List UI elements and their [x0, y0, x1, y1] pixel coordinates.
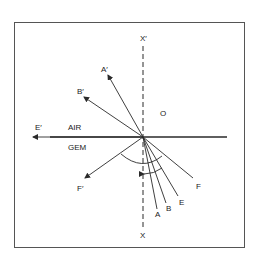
ray-f-prime: [85, 137, 143, 178]
diagram-frame: [15, 23, 245, 248]
label-e-prime: E′: [35, 123, 42, 132]
refraction-diagram: X′ X O AIR GEM A′ B′ E′ F′ A B E F: [0, 0, 254, 259]
label-a: A: [155, 210, 161, 219]
label-air: AIR: [68, 123, 82, 132]
label-b-prime: B′: [77, 87, 84, 96]
angle-arc-critical: [144, 168, 162, 174]
label-f: F: [196, 182, 201, 191]
label-b: B: [166, 204, 171, 213]
label-e: E: [179, 198, 184, 207]
label-gem: GEM: [68, 143, 87, 152]
label-f-prime: F′: [77, 184, 84, 193]
label-origin: O: [160, 109, 166, 118]
label-a-prime: A′: [101, 65, 108, 74]
label-x: X: [140, 231, 146, 240]
label-x-prime: X′: [140, 34, 147, 43]
ray-b-prime: [84, 97, 143, 137]
ray-a-prime: [108, 75, 143, 137]
